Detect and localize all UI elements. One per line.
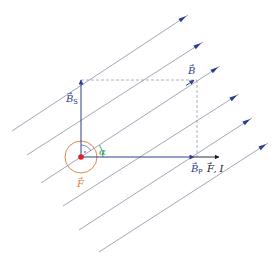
conductor-dot <box>78 154 84 160</box>
field-line <box>27 42 203 155</box>
label-bp-arrow: → <box>192 159 197 166</box>
field-arrow-icon <box>242 119 250 125</box>
field-line <box>79 118 252 230</box>
label-force-arrow: → <box>78 174 83 181</box>
label-bs-arrow: → <box>67 89 72 96</box>
label-fl-arrow: → <box>207 159 212 166</box>
field-arrow-icon <box>193 43 201 49</box>
label-alpha: α <box>99 146 106 157</box>
field-line <box>12 15 188 131</box>
label-b-arrow: → <box>189 61 194 68</box>
magnetic-field-diagram: B → BS → BP → F,I → F → α <box>0 0 279 261</box>
field-arrow-icon <box>178 16 186 22</box>
b-vector-head <box>186 80 194 85</box>
field-line <box>99 143 268 252</box>
right-angle-dot <box>84 151 86 153</box>
field-arrow-icon <box>258 144 266 150</box>
field-arrow-icon <box>229 95 237 101</box>
right-angle-arc-icon <box>81 145 91 151</box>
field-arrow-icon <box>210 67 218 73</box>
field-lines <box>12 15 268 252</box>
